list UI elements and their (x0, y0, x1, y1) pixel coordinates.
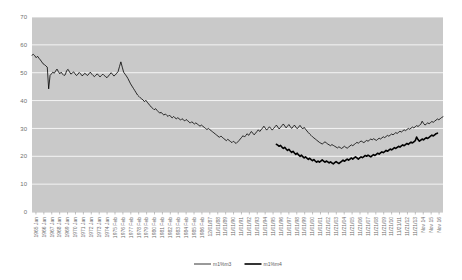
x-tick-label: 1980 Feb (151, 217, 157, 238)
x-tick-label: 11/01/96 (278, 217, 284, 236)
x-tick-label: 11/21/13 (412, 217, 418, 236)
x-tick-label: 12/01/87 (207, 217, 213, 237)
x-tick-label: 11/21/03 (333, 217, 339, 236)
x-tick-label: 1982 Feb (167, 217, 173, 238)
x-tick-label: 1983 Feb (175, 217, 181, 238)
x-tick-label: 1976 Feb (120, 217, 126, 238)
x-tick-label: 11/01/88 (215, 217, 221, 236)
x-tick-label: 11/01/95 (270, 217, 276, 236)
x-tick-label: 11/01/99 (301, 217, 307, 236)
x-tick-label: 1974 Jan (104, 217, 110, 238)
x-tick-label: 1977 Feb (128, 217, 134, 238)
x-tick-label: 1971 Jan (80, 217, 86, 238)
x-tick-label: 1970 Jan (72, 217, 78, 238)
x-tick-label: 11/21/07 (365, 217, 371, 236)
x-tick-label: 11/01/97 (286, 217, 292, 236)
x-tick-label: 1973 Jan (96, 217, 102, 238)
y-tick-label: 20 (20, 153, 27, 159)
x-tick-label: 11/01/93 (254, 217, 260, 236)
x-tick-label: 11/21/08 (373, 217, 379, 236)
y-tick-label: 10 (20, 181, 27, 187)
x-tick-label: 1969 Jan (64, 217, 70, 238)
x-tick-label: 11/21/12 (404, 217, 410, 236)
x-tick-label: 11/01/92 (246, 217, 252, 236)
x-tick-label: 1978 Feb (136, 217, 142, 238)
x-tick-label: 11/21/05 (349, 217, 355, 236)
x-tick-label: 1967 Jan (49, 217, 55, 238)
x-tick-label: 11/01/01 (317, 217, 323, 236)
x-tick-label: 11/21/02 (325, 217, 331, 236)
x-tick-label: 11/21/04 (341, 217, 347, 236)
x-tick-label: Nov 14 (420, 217, 426, 233)
plot-area-background (32, 17, 443, 212)
y-tick-label: 40 (20, 98, 27, 104)
y-tick-label: 70 (20, 14, 27, 20)
x-tick-label: 1984 Feb (183, 217, 189, 238)
x-tick-label: 11/01/98 (294, 217, 300, 236)
x-tick-label: Nov 15 (428, 217, 434, 233)
y-tick-label: 50 (20, 70, 27, 76)
x-tick-label: 1981 Feb (159, 217, 165, 238)
x-tick-label: 11/01/90 (230, 217, 236, 236)
legend-label-1: m1%m3 (213, 261, 232, 267)
x-tick-label: 11/01/89 (222, 217, 228, 236)
x-tick-label: 1972 Jan (88, 217, 94, 238)
x-tick-label: 1965 Jan (33, 217, 39, 238)
x-tick-label: 1986 Feb (199, 217, 205, 238)
x-tick-label: Nov 16 (436, 217, 442, 233)
x-tick-label: 11/21/09 (381, 217, 387, 236)
x-tick-label: 11/01/00 (309, 217, 315, 236)
x-tick-label: 1975 Feb (112, 217, 118, 238)
x-tick-label: 11/01/94 (262, 217, 268, 236)
x-tick-label: 11/21/06 (357, 217, 363, 236)
x-tick-label: 1985 Feb (191, 217, 197, 238)
line-chart: 010203040506070 1965 Jan1966 Jan1967 Jan… (0, 0, 462, 280)
x-tick-label: 11/01/91 (238, 217, 244, 236)
chart-container: 010203040506070 1965 Jan1966 Jan1967 Jan… (0, 0, 462, 280)
x-tick-label: 11/21/10 (388, 217, 394, 236)
x-tick-label: 1979 Feb (143, 217, 149, 238)
y-tick-label: 60 (20, 42, 27, 48)
x-tick-label: 11/21/11 (396, 217, 402, 236)
y-tick-label: 30 (20, 126, 27, 132)
x-tick-label: 1966 Jan (41, 217, 47, 238)
legend-label-2: m1%m4 (264, 261, 283, 267)
x-tick-label: 1968 Jan (56, 217, 62, 238)
